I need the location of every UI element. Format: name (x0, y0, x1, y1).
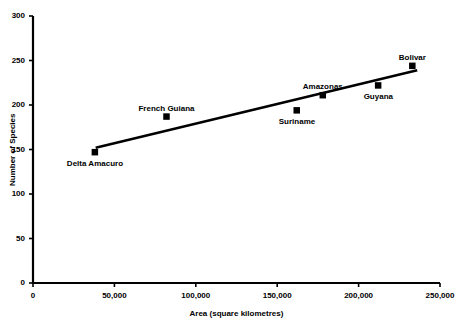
y-axis-title: Number of Species (8, 113, 17, 185)
point-label: Amazonas (303, 82, 343, 91)
x-tick-label: 50,000 (84, 291, 144, 300)
x-tick-label: 200,000 (329, 291, 389, 300)
x-tick-label: 150,000 (247, 291, 307, 300)
point-label: Delta Amacuro (67, 159, 123, 168)
scatter-chart: 050100150200250300 050,000100,000150,000… (0, 0, 460, 330)
y-tick-label: 50 (0, 234, 25, 243)
point-label: Guyana (364, 92, 393, 101)
y-tick-label: 200 (0, 100, 25, 109)
x-tick-label: 250,000 (410, 291, 460, 300)
y-tick-label: 100 (0, 189, 25, 198)
x-tick-label: 100,000 (166, 291, 226, 300)
y-tick-label: 250 (0, 56, 25, 65)
point-label: Bolivar (399, 53, 426, 62)
point-label: Suriname (279, 117, 315, 126)
point-label: French Guiana (138, 104, 194, 113)
y-tick-label: 0 (0, 278, 25, 287)
x-tick-label: 0 (3, 291, 63, 300)
y-tick-label: 300 (0, 11, 25, 20)
x-axis-title: Area (square kilometres) (190, 309, 284, 318)
